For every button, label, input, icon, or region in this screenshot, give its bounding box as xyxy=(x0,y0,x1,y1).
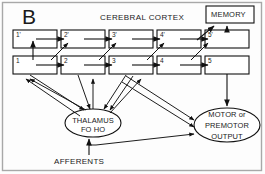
cortex-box-1p: 1' xyxy=(16,31,21,38)
afferents-label: AFFERENTS xyxy=(54,157,104,166)
motor-label-line3: OUTPUT xyxy=(194,132,260,141)
motor-label-line2: PREMOTOR xyxy=(194,121,260,130)
cortex-box-5p: 5' xyxy=(208,31,213,38)
motor-label-line1: MOTOR or xyxy=(194,110,260,119)
thalamus-label-line1: THALAMUS xyxy=(65,116,121,125)
cortex-box-4: 4 xyxy=(160,57,164,64)
cortex-box-5: 5 xyxy=(208,57,212,64)
afferent-to-motor-arrow xyxy=(96,134,194,145)
thalamus-label-line2: FO HO xyxy=(65,125,121,134)
figure-title: CEREBRAL CORTEX xyxy=(100,13,184,22)
cortex-box-3p: 3' xyxy=(112,31,117,38)
cortex-box-4p: 4' xyxy=(160,31,165,38)
cortex-box-1: 1 xyxy=(16,57,20,64)
diagram-canvas xyxy=(0,0,265,174)
cortex-box-3: 3 xyxy=(112,57,116,64)
panel-letter: B xyxy=(22,5,36,29)
cortico-motor-arrows xyxy=(122,76,194,127)
memory-box-label: MEMORY xyxy=(211,10,246,19)
figure-frame xyxy=(3,3,262,171)
figure-panel-b: B CEREBRAL CORTEX MEMORY 1' 2' 3' 4' 5' … xyxy=(0,0,265,174)
cortex-box-2p: 2' xyxy=(64,31,69,38)
cortex-box-2: 2 xyxy=(64,57,68,64)
